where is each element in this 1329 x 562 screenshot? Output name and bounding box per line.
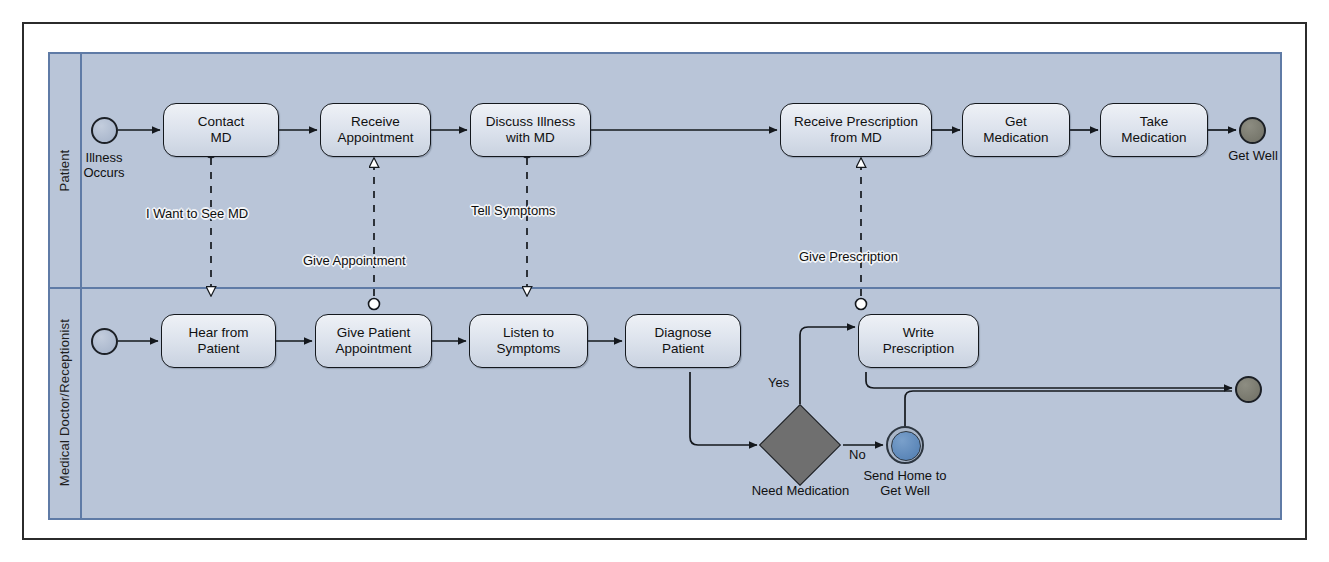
task-diagnose-patient[interactable]: Diagnose Patient	[625, 314, 741, 368]
task-write-prescription[interactable]: Write Prescription	[858, 314, 979, 368]
message-label-i-want-to-see-md: I Want to See MD	[146, 206, 248, 221]
message-label-tell-symptoms: Tell Symptoms	[471, 203, 556, 218]
intermediate-event-send-home-caption: Send Home to Get Well	[829, 468, 981, 498]
start-event-md[interactable]	[91, 328, 118, 355]
start-event-illness-caption: Illness Occurs	[56, 150, 152, 180]
task-receive-appointment[interactable]: Receive Appointment	[320, 103, 431, 157]
flow-label-no: No	[849, 447, 866, 462]
intermediate-event-send-home[interactable]	[886, 426, 924, 464]
flow-label-yes: Yes	[768, 375, 789, 390]
task-take-medication[interactable]: Take Medication	[1100, 103, 1208, 157]
task-get-medication[interactable]: Get Medication	[962, 103, 1070, 157]
task-discuss-illness-with-md[interactable]: Discuss Illness with MD	[470, 103, 591, 157]
diagram-canvas: Patient Medical Doctor/Receptionist	[0, 0, 1329, 562]
task-hear-from-patient[interactable]: Hear from Patient	[161, 314, 276, 368]
end-event-md[interactable]	[1235, 376, 1262, 403]
task-contact-md[interactable]: Contact MD	[163, 103, 279, 157]
message-label-give-prescription: Give Prescription	[799, 249, 898, 264]
message-label-give-appointment: Give Appointment	[303, 253, 406, 268]
lane-header-medical-doctor-receptionist: Medical Doctor/Receptionist	[50, 287, 82, 518]
task-give-patient-appointment[interactable]: Give Patient Appointment	[315, 314, 432, 368]
intermediate-event-send-home-inner	[891, 431, 921, 461]
lane-label-medical-doctor-receptionist: Medical Doctor/Receptionist	[58, 319, 73, 486]
task-listen-to-symptoms[interactable]: Listen to Symptoms	[469, 314, 588, 368]
end-event-get-well-caption: Get Well	[1205, 148, 1301, 163]
task-receive-prescription-from-md[interactable]: Receive Prescription from MD	[780, 103, 932, 157]
lane-divider	[50, 287, 1280, 289]
end-event-get-well[interactable]	[1239, 117, 1266, 144]
start-event-illness[interactable]	[91, 117, 118, 144]
